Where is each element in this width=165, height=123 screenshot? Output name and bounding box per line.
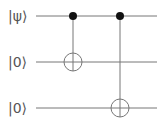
circuit-diagram	[0, 0, 165, 123]
cnot-2-control-dot-icon	[116, 12, 124, 20]
cnot-1-control-dot-icon	[69, 12, 77, 20]
